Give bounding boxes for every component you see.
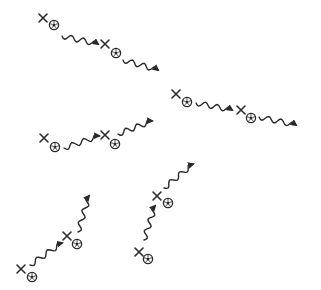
soccer-ball-icon <box>110 139 119 148</box>
soccer-ball-icon <box>72 239 81 248</box>
soccer-ball-icon <box>163 198 172 207</box>
player-x-icon <box>40 134 48 142</box>
dribble-arrow-icon <box>30 243 62 266</box>
player-x-icon <box>39 14 47 22</box>
dribble-arrow-icon <box>123 60 158 70</box>
soccer-ball-icon <box>246 113 255 122</box>
player-x-icon <box>17 265 25 273</box>
dribble-arrow-icon <box>62 36 98 45</box>
soccer-ball-icon <box>27 272 36 281</box>
player-with-ball <box>39 14 59 30</box>
soccer-ball-icon <box>49 20 58 29</box>
soccer-ball-icon <box>182 97 191 106</box>
soccer-ball-icon <box>50 142 59 151</box>
dribble-arrow-icon <box>196 102 232 111</box>
dribble-arrow-icon <box>78 196 89 232</box>
player-with-ball <box>153 192 173 208</box>
player-x-icon <box>63 232 71 240</box>
dribble-arrow-icon <box>144 206 155 240</box>
soccer-ball-icon <box>111 48 120 57</box>
player-x-icon <box>101 40 109 48</box>
dribble-arrow-icon <box>164 164 193 188</box>
dribbling-drill-diagram <box>0 0 321 290</box>
player-with-ball <box>237 106 256 123</box>
player-with-ball <box>40 134 60 152</box>
player-x-icon <box>101 131 109 139</box>
player-x-icon <box>135 248 143 256</box>
players <box>17 14 256 282</box>
player-x-icon <box>153 192 161 200</box>
soccer-ball-icon <box>143 254 152 263</box>
player-with-ball <box>101 131 120 149</box>
dribble-arrow-icon <box>118 120 152 135</box>
player-with-ball <box>135 248 153 264</box>
dribble-arrows <box>30 36 296 266</box>
player-x-icon <box>172 90 180 98</box>
dribble-arrow-icon <box>64 135 99 149</box>
player-with-ball <box>101 40 121 58</box>
dribble-arrow-icon <box>259 117 296 126</box>
player-with-ball <box>63 232 82 249</box>
player-x-icon <box>237 106 245 114</box>
player-with-ball <box>17 265 37 282</box>
player-with-ball <box>172 90 192 107</box>
